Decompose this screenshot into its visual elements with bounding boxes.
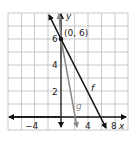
tick-y6: 6 [52, 34, 58, 44]
tick-neg4: −4 [25, 121, 39, 131]
point-0-6 [59, 37, 63, 41]
tick-y4: 4 [52, 60, 58, 70]
tick-4: 4 [85, 121, 91, 131]
y-axis-label: y [65, 11, 72, 21]
point-label: (0, 6) [64, 28, 88, 38]
label-g: g [76, 101, 82, 111]
tick-8: 8 [111, 121, 117, 131]
coordinate-plane: y (0, 6) 6 4 2 f g −4 4 8 x [0, 0, 137, 147]
tick-y2: 2 [52, 87, 58, 97]
x-axis-label: x [118, 121, 125, 131]
